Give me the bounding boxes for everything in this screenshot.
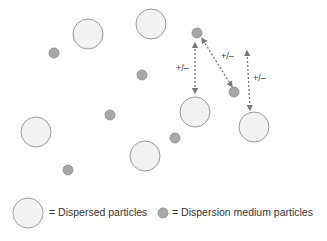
medium-particle xyxy=(170,133,180,143)
legend-dispersed-particle-icon xyxy=(13,198,43,228)
double-arrow-icon xyxy=(247,53,250,108)
legend-dispersed-label: = Dispersed particles xyxy=(49,206,147,218)
dispersed-particle xyxy=(130,141,160,171)
medium-particle xyxy=(229,87,239,97)
medium-particle xyxy=(63,165,73,175)
legend-medium-label: = Dispersion medium particles xyxy=(172,206,313,218)
plus-minus-label: +/– xyxy=(221,51,234,61)
dispersed-particle xyxy=(239,112,269,142)
legend-medium-particle-icon xyxy=(158,208,168,218)
medium-particle xyxy=(192,28,202,38)
medium-particle xyxy=(49,48,59,58)
dispersed-particle xyxy=(21,117,51,147)
double-arrow-icon xyxy=(203,40,231,85)
medium-particle xyxy=(105,110,115,120)
dispersed-particle xyxy=(73,19,103,49)
medium-particle xyxy=(137,70,147,80)
plus-minus-label: +/– xyxy=(176,63,189,73)
dispersed-particle xyxy=(180,97,210,127)
dispersed-particle xyxy=(136,9,166,39)
colloid-diagram: +/–+/–+/– xyxy=(0,0,327,241)
plus-minus-label: +/– xyxy=(253,73,266,83)
